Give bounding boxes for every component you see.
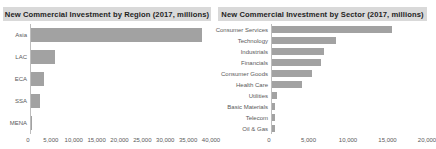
x-tick-label: 0	[267, 137, 270, 143]
bar-row: Asia	[3, 24, 211, 46]
bar	[272, 37, 336, 44]
category-label: SSA	[3, 90, 30, 112]
bar-row: ECA	[3, 68, 211, 90]
x-tick-label: 10,000	[65, 137, 83, 143]
bar-track	[30, 24, 211, 46]
bar-row: SSA	[3, 90, 211, 112]
category-label: Health Care	[218, 79, 271, 90]
bar-row: LAC	[3, 46, 211, 68]
category-label: Consumer Goods	[218, 68, 271, 79]
bar	[272, 114, 275, 121]
x-tick-label: 5,000	[43, 137, 58, 143]
bars-area: Consumer ServicesTechnologyIndustrialsFi…	[218, 24, 427, 134]
category-label: Utilities	[218, 90, 271, 101]
bar-track	[30, 90, 211, 112]
bar-track	[271, 24, 427, 35]
category-label: Consumer Services	[218, 24, 271, 35]
category-label: Asia	[3, 24, 30, 46]
chart-title: New Commercial Investment by Region (201…	[3, 7, 211, 21]
x-tick-label: 35,000	[179, 137, 197, 143]
category-label: Technology	[218, 35, 271, 46]
x-tick-label: 15,000	[87, 137, 105, 143]
bar-row: Financials	[218, 57, 427, 68]
bar-row: MENA	[3, 112, 211, 134]
bar	[272, 92, 277, 99]
bar-row: Telecom	[218, 112, 427, 123]
category-label: Oil & Gas	[218, 123, 271, 134]
bar-row: Utilities	[218, 90, 427, 101]
category-label: MENA	[3, 112, 30, 134]
bar	[31, 94, 40, 108]
x-tick-label: 25,000	[133, 137, 151, 143]
x-tick-label: 10,000	[339, 137, 357, 143]
bars-area: AsiaLACECASSAMENA	[3, 24, 211, 134]
bar	[31, 72, 44, 86]
bar	[272, 125, 275, 132]
category-label: Financials	[218, 57, 271, 68]
bar-row: Industrials	[218, 46, 427, 57]
bar-track	[271, 46, 427, 57]
bar	[272, 26, 392, 33]
bar-track	[271, 79, 427, 90]
bar-track	[271, 123, 427, 134]
chart-title: New Commercial Investment by Sector (201…	[218, 7, 427, 21]
sector-bar-chart: New Commercial Investment by Sector (201…	[218, 7, 427, 147]
bar-track	[271, 101, 427, 112]
category-label: Telecom	[218, 112, 271, 123]
bar	[272, 48, 324, 55]
x-tick-label: 15,000	[378, 137, 396, 143]
category-label: Industrials	[218, 46, 271, 57]
bar-row: Oil & Gas	[218, 123, 427, 134]
category-label: LAC	[3, 46, 30, 68]
bar-track	[30, 46, 211, 68]
bar-row: Consumer Services	[218, 24, 427, 35]
bar-track	[30, 112, 211, 134]
bar-track	[271, 35, 427, 46]
bar	[31, 50, 55, 64]
bar-track	[271, 57, 427, 68]
bar-track	[271, 68, 427, 79]
bar	[272, 70, 312, 77]
x-axis: 05,00010,00015,00020,00025,00030,00035,0…	[28, 135, 211, 147]
x-axis: 05,00010,00015,00020,000	[269, 135, 427, 147]
bar-row: Basic Materials	[218, 101, 427, 112]
bar	[272, 103, 275, 110]
bar	[31, 116, 32, 130]
bar-row: Technology	[218, 35, 427, 46]
x-tick-label: 0	[26, 137, 29, 143]
bar	[31, 28, 202, 42]
x-tick-label: 20,000	[418, 137, 436, 143]
x-tick-label: 5,000	[301, 137, 316, 143]
bar	[272, 81, 302, 88]
bar-track	[30, 68, 211, 90]
bar-row: Health Care	[218, 79, 427, 90]
bar-row: Consumer Goods	[218, 68, 427, 79]
bar	[272, 59, 321, 66]
bar-track	[271, 112, 427, 123]
bar-track	[271, 90, 427, 101]
region-bar-chart: New Commercial Investment by Region (201…	[3, 7, 211, 147]
category-label: ECA	[3, 68, 30, 90]
x-tick-label: 20,000	[110, 137, 128, 143]
x-tick-label: 30,000	[156, 137, 174, 143]
category-label: Basic Materials	[218, 101, 271, 112]
